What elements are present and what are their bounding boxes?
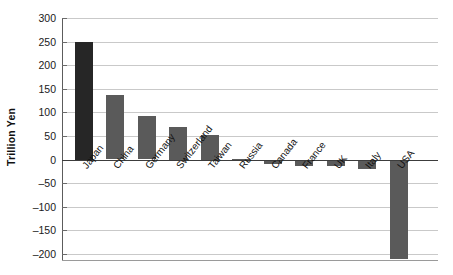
gridline: [62, 230, 438, 231]
gridline: [62, 207, 438, 208]
bar-chart: Trillion Yen JapanChinaGermanySwitzerlan…: [0, 0, 453, 275]
y-axis-tick: [62, 112, 67, 113]
y-axis-tick-label: 100: [12, 106, 56, 118]
y-axis-tick: [62, 89, 67, 90]
y-axis-tick: [62, 136, 67, 137]
y-axis-tick-label: –50: [12, 177, 56, 189]
gridline: [62, 65, 438, 66]
y-axis-tick: [62, 230, 67, 231]
gridline: [62, 42, 438, 43]
x-axis-label-france: France: [300, 139, 328, 170]
gridline: [62, 18, 438, 19]
y-axis-tick-label: 150: [12, 83, 56, 95]
y-axis-tick-label: –200: [12, 248, 56, 260]
y-axis-tick-label: 250: [12, 36, 56, 48]
x-axis-label-italy: Italy: [363, 149, 383, 170]
y-axis-tick: [62, 18, 67, 19]
y-axis-tick: [62, 254, 67, 255]
x-axis-label-uk: UK: [332, 153, 349, 171]
plot-bottom-border: [62, 260, 438, 261]
y-axis-tick: [62, 42, 67, 43]
bar-usa[interactable]: [390, 160, 408, 259]
y-axis-tick-label: –150: [12, 224, 56, 236]
y-axis-tick-label: 200: [12, 59, 56, 71]
x-axis-label-russia: Russia: [237, 139, 264, 170]
y-axis-tick-label: 50: [12, 130, 56, 142]
plot-area: JapanChinaGermanySwitzerlandTaiwanRussia…: [62, 18, 438, 261]
y-axis-tick: [62, 183, 67, 184]
y-axis-tick-label: 300: [12, 12, 56, 24]
y-axis-tick: [62, 207, 67, 208]
y-axis-tick-label: –100: [12, 201, 56, 213]
gridline: [62, 183, 438, 184]
y-axis-tick: [62, 65, 67, 66]
gridline: [62, 254, 438, 255]
y-axis-tick-label: 0: [12, 154, 56, 166]
bar-japan[interactable]: [75, 42, 93, 160]
y-axis-line: [62, 18, 63, 261]
x-axis-label-usa: USA: [395, 147, 416, 170]
gridline: [62, 89, 438, 90]
